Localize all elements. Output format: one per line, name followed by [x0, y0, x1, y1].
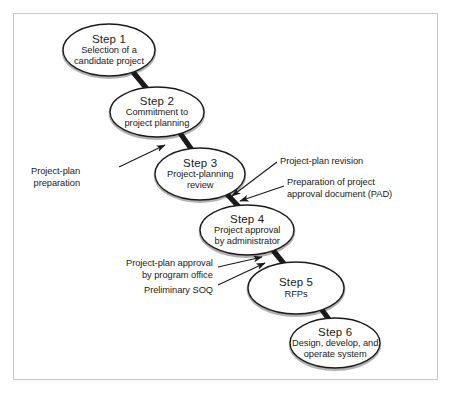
annotation-project-plan-revision: Project-plan revision [280, 156, 363, 168]
step-5-ellipse [248, 262, 344, 314]
annotation-line: Project-plan approval [126, 258, 213, 270]
flow-diagram-figure: Step 1Selection of acandidate projectSte… [0, 0, 453, 395]
annotation-line: Preliminary SOQ [144, 285, 213, 297]
step-4-ellipse [200, 205, 294, 255]
annotation-preparation-of-pad: Preparation of projectapproval document … [287, 177, 392, 201]
annotation-line: Preparation of project [287, 177, 392, 189]
annotation-line: approval document (PAD) [287, 189, 392, 201]
annotation-line: preparation [31, 178, 80, 190]
annotation-project-plan-approval-program-office: Project-plan approvalby program office [126, 258, 213, 282]
annotation-line: Project-plan [31, 166, 80, 178]
annotation-line: Project-plan revision [280, 156, 363, 168]
step-6-ellipse [290, 318, 380, 368]
leader-line-preparation-of-pad [240, 186, 284, 201]
step-3-ellipse [155, 148, 245, 200]
annotation-project-plan-preparation: Project-planpreparation [31, 166, 80, 190]
connector-step-1-to-step-2 [133, 72, 147, 89]
annotation-preliminary-soq: Preliminary SOQ [144, 285, 213, 297]
annotation-line: by program office [126, 270, 213, 282]
step-1-ellipse [63, 24, 155, 76]
step-2-ellipse [110, 87, 204, 137]
leader-line-project-plan-approval-program-office [218, 257, 262, 267]
